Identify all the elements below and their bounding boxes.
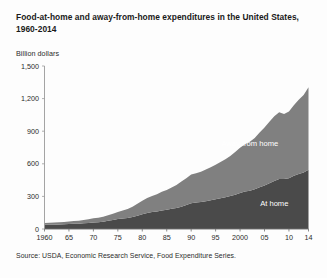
x-axis-tick-label: 1960	[37, 233, 53, 242]
x-axis-tick-label: 80	[138, 233, 146, 242]
x-axis-tick-label: 90	[187, 233, 195, 242]
y-axis-tick-label: 900	[27, 127, 39, 136]
y-axis-tick-label: 300	[27, 192, 39, 201]
y-axis-tick-label: 600	[27, 159, 39, 168]
chart-source: Source: USDA, Economic Research Service,…	[16, 252, 236, 259]
series-label-at-home: At home	[260, 199, 288, 208]
x-axis-tick-label: 65	[65, 233, 73, 242]
series-label-away-from-home: Away from home	[221, 139, 278, 148]
x-axis-tick-label: 75	[114, 233, 122, 242]
x-axis-tick-label: 70	[89, 233, 97, 242]
x-axis-tick-label: 85	[163, 233, 171, 242]
chart-figure: Food-at-home and away-from-home expendit…	[0, 0, 327, 278]
y-axis-tick-label: 1,200	[21, 94, 39, 103]
x-axis-tick-label: 14	[305, 233, 313, 242]
x-axis-tick-label: 05	[261, 233, 269, 242]
area-chart-svg: 03006009001,2001,50019606570758085909520…	[0, 0, 327, 278]
x-axis-tick-label: 95	[212, 233, 220, 242]
y-axis-tick-label: 1,500	[21, 62, 39, 71]
plot-area: 03006009001,2001,50019606570758085909520…	[0, 0, 327, 278]
x-axis-tick-label: 10	[285, 233, 293, 242]
x-axis-tick-label: 2000	[232, 233, 248, 242]
